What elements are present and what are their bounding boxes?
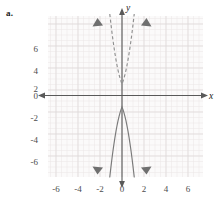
- y-axis-arrow-top: [119, 8, 125, 15]
- x-tick-label: 0: [120, 184, 125, 194]
- y-tick-label: -4: [31, 135, 39, 145]
- y-tick-labels: 6420-2-4-6: [31, 44, 39, 168]
- x-tick-label: 6: [186, 184, 191, 194]
- y-tick-label: 0: [34, 91, 39, 101]
- plot-background: [48, 16, 203, 177]
- y-tick-label: 6: [34, 44, 39, 54]
- x-axis-label: x: [208, 91, 214, 101]
- x-tick-labels: -6 -4 -2 0 2 4 6: [52, 184, 191, 194]
- y-tick-label: -6: [31, 157, 39, 167]
- x-tick-label: -2: [96, 184, 104, 194]
- x-axis-arrow-right: [201, 93, 208, 99]
- coordinate-plane-graph: 6420-2-4-6 -6 -4 -2 0 2 4 6 y x: [0, 0, 221, 200]
- x-tick-label: -6: [52, 184, 60, 194]
- x-axis-arrow-left: [38, 93, 45, 99]
- x-tick-label: 2: [142, 184, 147, 194]
- figure-container: a.: [0, 0, 221, 200]
- y-axis-label: y: [125, 3, 131, 13]
- y-tick-label: 4: [34, 66, 39, 76]
- x-tick-label: -4: [74, 184, 82, 194]
- y-tick-label: -2: [31, 113, 39, 123]
- x-tick-label: 4: [164, 184, 169, 194]
